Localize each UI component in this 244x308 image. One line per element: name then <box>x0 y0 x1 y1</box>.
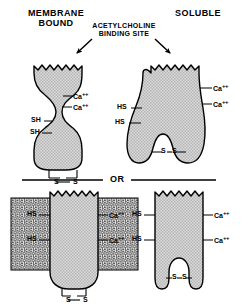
or-divider-label: OR <box>110 174 125 184</box>
top-left-disulfide-label-right: S <box>73 178 78 186</box>
bottom-right-thiol-label-2: HS <box>132 235 142 243</box>
callout-line2: BINDING SITE <box>88 30 160 38</box>
bottom-right-disulfide-label-right: S <box>182 273 187 281</box>
top-right-disulfide-label-left: S <box>161 147 166 155</box>
top-left-thiol-label-1: SH <box>31 116 41 124</box>
bottom-right-calcium-label-2: Ca++ <box>214 235 229 245</box>
title-membrane-bound: MEMBRANE BOUND <box>14 8 98 29</box>
callout-line1: ACETYLCHOLINE <box>88 22 160 30</box>
bottom-left-disulfide-label-left: S <box>66 296 71 304</box>
title-membrane-bound-line2: BOUND <box>14 18 98 28</box>
top-left-thiol-label-2: SH <box>30 128 40 136</box>
bottom-right-enzyme-shape <box>155 191 203 289</box>
bottom-right-thiol-leaders <box>144 215 155 240</box>
bottom-right-thiol-label-1: HS <box>132 210 142 218</box>
callout-arrow-right <box>155 39 170 53</box>
bottom-right-disulfide-label-left: S <box>172 273 177 281</box>
diagram-graphics <box>0 0 244 308</box>
bottom-left-thiol-label-1: HS <box>27 210 37 218</box>
bottom-right-calcium-label-1: Ca++ <box>214 210 229 220</box>
bottom-right-calcium-leaders <box>203 215 213 240</box>
title-membrane-bound-line1: MEMBRANE <box>14 8 98 18</box>
top-left-enzyme-shape <box>34 65 82 170</box>
title-soluble: SOLUBLE <box>165 8 231 18</box>
top-right-thiol-label-1: HS <box>117 103 127 111</box>
top-right-thiol-label-2: HS <box>115 118 125 126</box>
top-left-disulfide-label-left: S <box>54 178 59 186</box>
callout-arrow-left <box>77 39 92 53</box>
top-right-calcium-label-1: Ca++ <box>213 83 228 93</box>
top-right-disulfide-label-right: S <box>172 147 177 155</box>
top-left-calcium-label-2: Ca++ <box>73 102 88 112</box>
bottom-left-calcium-label-1: Ca++ <box>109 210 124 220</box>
bottom-left-disulfide-label-right: S <box>83 296 88 304</box>
acetylcholine-binding-site-callout: ACETYLCHOLINE BINDING SITE <box>88 22 160 38</box>
acetylcholinesterase-forms-diagram: MEMBRANE BOUND SOLUBLE ACETYLCHOLINE BIN… <box>0 0 244 308</box>
bottom-left-calcium-label-2: Ca++ <box>109 235 124 245</box>
top-right-calcium-label-2: Ca++ <box>213 99 228 109</box>
top-right-enzyme-shape <box>127 65 205 163</box>
top-left-calcium-label-1: Ca++ <box>73 91 88 101</box>
bottom-left-thiol-label-2: HS <box>27 235 37 243</box>
bottom-left-enzyme-shape <box>50 191 98 289</box>
